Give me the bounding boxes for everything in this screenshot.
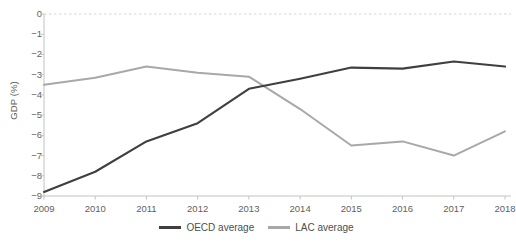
legend-label: OECD average <box>186 222 254 233</box>
series-line-lac-average <box>44 67 505 156</box>
x-tick-label: 2009 <box>33 203 54 214</box>
legend-line-swatch-icon <box>159 226 181 229</box>
x-tick-label: 2016 <box>392 203 413 214</box>
legend-item[interactable]: OECD average <box>159 222 254 233</box>
x-tick-label: 2011 <box>136 203 156 214</box>
x-tick-label: 2014 <box>290 203 311 214</box>
series-line-oecd-average <box>44 62 505 192</box>
x-tick-label: 2018 <box>494 203 515 214</box>
x-tick-label: 2017 <box>443 203 464 214</box>
chart-legend: OECD averageLAC average <box>0 222 513 233</box>
x-tick-label: 2015 <box>341 203 362 214</box>
x-tick-label: 2010 <box>85 203 106 214</box>
x-axis-tick-labels: 2009201020112012201320142015201620172018 <box>0 199 513 215</box>
legend-item[interactable]: LAC average <box>268 222 353 233</box>
x-tick-label: 2013 <box>238 203 259 214</box>
x-tick-label: 2012 <box>187 203 208 214</box>
legend-line-swatch-icon <box>268 226 290 228</box>
legend-label: LAC average <box>295 222 353 233</box>
